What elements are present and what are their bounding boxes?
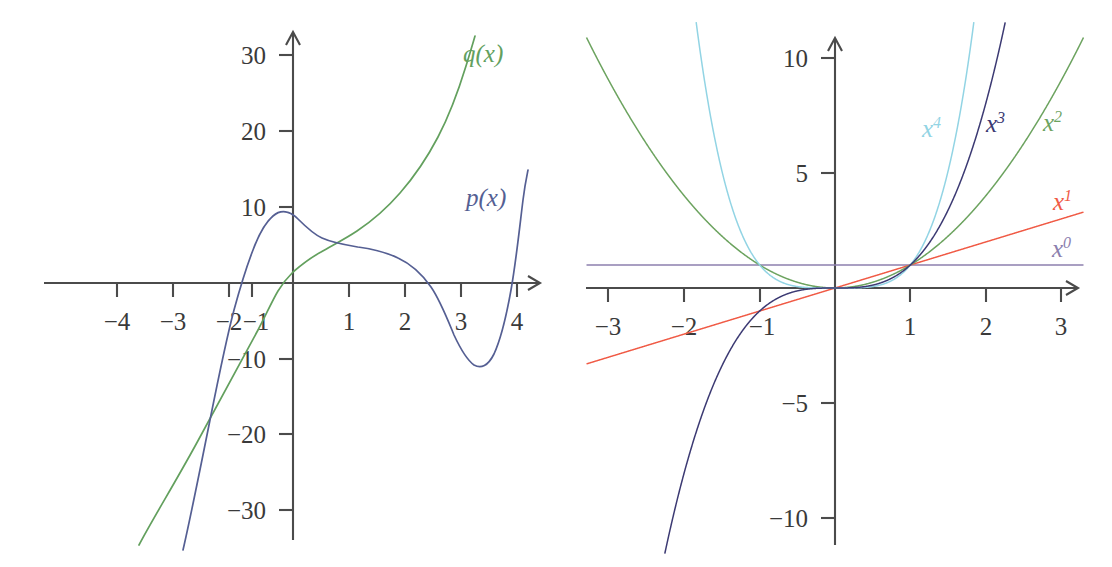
left-plot-figure: −4 −3 −2 −1 1 2 3 4 30 20 10 −10 −20 −30 (0, 0, 556, 567)
right-plot-svg: −3 −2 −1 1 2 3 10 5 −5 −10 (556, 0, 1112, 567)
left-x-tick-label: 1 (343, 308, 356, 335)
x2-curve-label-exponent: 2 (1054, 108, 1062, 125)
right-y-tick-label: −5 (781, 390, 808, 417)
left-y-tick-label: −30 (227, 497, 266, 524)
left-x-tick-label: 3 (455, 308, 468, 335)
left-x-tick-labels: −4 −3 −2 −1 1 2 3 4 (104, 308, 524, 335)
left-x-tick-label: −3 (160, 308, 187, 335)
right-x-tick-label: 1 (904, 313, 917, 340)
left-x-tick-label: 2 (399, 308, 412, 335)
x4-curve-label: x4 (921, 114, 941, 142)
right-y-tick-label: 5 (796, 160, 809, 187)
x2-curve-label-base: x (1042, 109, 1054, 136)
left-x-ticks (117, 283, 517, 297)
left-x-tick-label: 4 (511, 308, 524, 335)
x3-curve-label-base: x (985, 110, 997, 137)
right-x-tick-label: 2 (980, 313, 993, 340)
right-x-tick-label: −2 (671, 313, 698, 340)
left-y-tick-label: 20 (241, 118, 266, 145)
curve-q-of-x (139, 36, 475, 545)
x4-curve-label-exponent: 4 (933, 114, 941, 131)
left-y-tick-label: 10 (241, 194, 266, 221)
x0-curve-label-exponent: 0 (1063, 234, 1071, 251)
left-x-tick-label: −1 (243, 308, 270, 335)
x3-curve-label-exponent: 3 (996, 109, 1005, 126)
x4-curve-label-base: x (921, 115, 933, 142)
right-plot-figure: −3 −2 −1 1 2 3 10 5 −5 −10 (556, 0, 1112, 567)
x1-curve-label-base: x (1052, 188, 1064, 215)
right-y-tick-label: 10 (783, 45, 808, 72)
x1-curve-label: x1 (1052, 187, 1072, 215)
x0-curve-label: x0 (1051, 234, 1071, 262)
right-x-tick-labels: −3 −2 −1 1 2 3 (595, 313, 1068, 340)
left-y-tick-label: −20 (227, 421, 266, 448)
left-plot-svg: −4 −3 −2 −1 1 2 3 4 30 20 10 −10 −20 −30 (0, 0, 556, 567)
right-y-tick-label: −10 (769, 505, 808, 532)
left-x-tick-label: −4 (104, 308, 131, 335)
x2-curve-label: x2 (1042, 108, 1062, 136)
figure-page: −4 −3 −2 −1 1 2 3 4 30 20 10 −10 −20 −30 (0, 0, 1112, 567)
right-x-tick-label: −3 (595, 313, 622, 340)
right-x-tick-label: 3 (1055, 313, 1068, 340)
q-curve-label: q(x) (463, 40, 503, 68)
left-y-tick-label: 30 (241, 42, 266, 69)
x3-curve-label: x3 (985, 109, 1005, 137)
x0-curve-label-base: x (1051, 235, 1063, 262)
p-curve-label: p(x) (464, 184, 506, 212)
left-plot-axes (44, 32, 540, 540)
x1-curve-label-exponent: 1 (1064, 187, 1072, 204)
